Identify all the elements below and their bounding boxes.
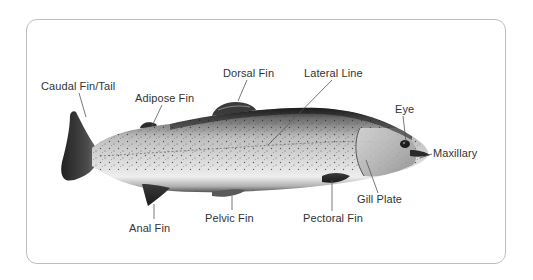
leader-line-caudal-fin-tail <box>79 93 86 117</box>
fish-illustration <box>0 0 533 280</box>
label-maxillary: Maxillary <box>433 147 477 160</box>
label-lateral-line: Lateral Line <box>304 67 363 80</box>
anal-fin-shape <box>142 184 170 206</box>
label-anal-fin: Anal Fin <box>129 222 170 235</box>
caudal-fin-shape <box>61 111 98 180</box>
label-caudal-fin-tail: Caudal Fin/Tail <box>41 80 115 93</box>
label-dorsal-fin: Dorsal Fin <box>223 67 274 80</box>
label-eye: Eye <box>395 103 414 116</box>
label-gill-plate: Gill Plate <box>357 193 402 206</box>
label-adipose-fin: Adipose Fin <box>135 92 194 105</box>
label-pelvic-fin: Pelvic Fin <box>205 212 254 225</box>
leader-line-adipose-fin <box>152 105 162 126</box>
leader-line-dorsal-fin <box>238 80 247 101</box>
eye-shape <box>400 140 410 148</box>
label-pectoral-fin: Pectoral Fin <box>303 212 363 225</box>
